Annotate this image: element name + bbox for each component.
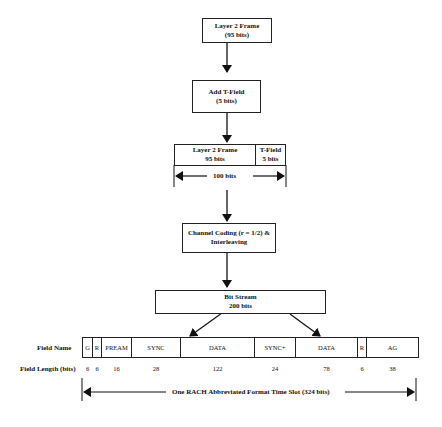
add-tfield-box: Add T-Field (5 bits) — [192, 80, 261, 113]
box-sublabel: 200 bits — [229, 302, 252, 311]
field-length-sync: 28 — [131, 365, 181, 372]
layer2-frame-box: Layer 2 Frame (95 bits) — [202, 18, 272, 43]
box-sublabel: 95 bits — [205, 155, 225, 164]
field-name-row-label: Field Name — [37, 344, 71, 352]
field-cell-data-2: DATA — [295, 337, 358, 358]
box-sublabel: 5 bits — [262, 155, 278, 164]
field-cell-ag: AG — [366, 337, 419, 358]
box-label: Layer 2 Frame — [193, 146, 238, 155]
box-label: Channel Coding (r = 1/2) & — [188, 229, 270, 238]
box-sublabel: Interleaving — [211, 238, 248, 247]
box-label: Bit Stream — [224, 293, 256, 302]
field-cell-sync-plus: SYNC+ — [254, 337, 296, 358]
field-length-data-2: 78 — [295, 365, 358, 372]
field-length-row-label: Field Length (bits) — [20, 365, 76, 373]
span-100-bits-label: 100 bits — [211, 172, 238, 180]
connector-arrows — [0, 0, 442, 427]
channel-coding-box: Channel Coding (r = 1/2) & Interleaving — [182, 223, 276, 253]
box-label: Add T-Field — [209, 88, 245, 97]
field-cell-data-1: DATA — [180, 337, 255, 358]
field-cell-pream: PREAM — [101, 337, 132, 358]
field-length-sync-plus: 24 — [254, 365, 296, 372]
box-sublabel: (95 bits) — [225, 31, 249, 40]
field-length-pream: 16 — [101, 365, 132, 372]
box-label: Layer 2 Frame — [215, 22, 260, 31]
combined-frame-tfield-part: T-Field 5 bits — [255, 144, 286, 166]
box-label: T-Field — [260, 146, 282, 155]
field-cell-sync: SYNC — [131, 337, 181, 358]
time-slot-span-label: One RACH Abbreviated Format Time Slot (3… — [172, 388, 330, 396]
field-length-data-1: 122 — [180, 365, 255, 372]
field-length-ag: 38 — [366, 365, 419, 372]
bit-stream-box: Bit Stream 200 bits — [155, 290, 326, 314]
box-sublabel: (5 bits) — [216, 97, 237, 106]
combined-frame-layer2-part: Layer 2 Frame 95 bits — [174, 144, 256, 166]
